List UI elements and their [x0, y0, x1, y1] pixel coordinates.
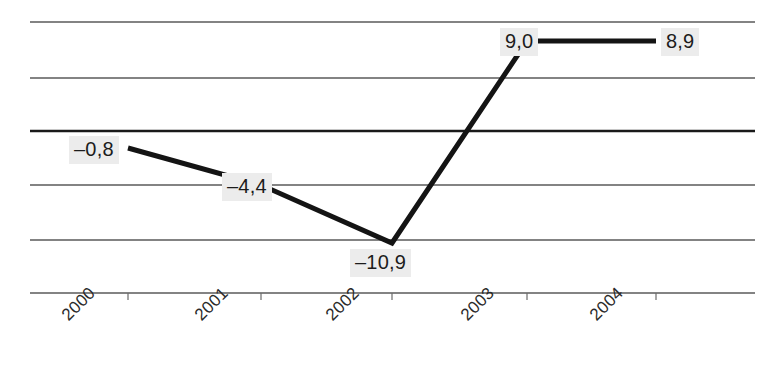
chart-container: –0,8 –4,4 –10,9 9,0 8,9 2000 2001 2002 2…: [0, 0, 773, 372]
data-label-2000: –0,8: [69, 136, 119, 164]
data-label-2004: 8,9: [661, 28, 699, 56]
chart-plot-svg: [0, 0, 773, 372]
data-label-2003: 9,0: [500, 28, 538, 56]
data-label-2001: –4,4: [222, 173, 272, 201]
data-label-2002: –10,9: [350, 249, 411, 277]
data-series-line: [128, 41, 656, 243]
